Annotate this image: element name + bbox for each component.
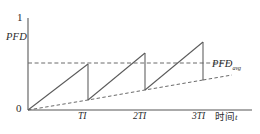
x-axis-label-text: 时间 [215,111,235,122]
y-axis-tick-top: 1 [17,12,23,23]
pfd-sawtooth-chart: 1 0 PFD TI 2TI 3TI 时间t PFDavg [0,0,260,134]
sawtooth-ramp-3 [145,42,203,90]
pfd-avg-annotation: PFDavg [212,59,241,71]
lower-envelope-dashed [28,80,203,110]
x-axis-label: 时间t [215,112,238,122]
x-axis-tick-2ti: 2TI [133,112,146,122]
sawtooth-ramp-2 [88,53,145,100]
pfd-avg-annotation-name: PFD [212,58,232,69]
pfd-avg-annotation-subscript: avg [232,65,241,71]
x-axis-tick-3ti: 3TI [192,112,205,122]
y-axis-tick-zero: 0 [16,103,22,114]
lower-envelope-extension [203,75,232,80]
sawtooth-ramp-1 [28,64,88,110]
x-axis-label-variable: t [235,112,238,122]
x-axis-tick-ti: TI [78,112,86,122]
y-axis-label: PFD [6,32,27,43]
